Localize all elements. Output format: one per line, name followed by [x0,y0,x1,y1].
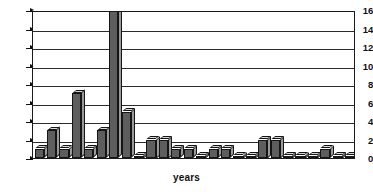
bar-front-face [47,130,56,158]
bar-front-face [196,156,205,159]
bar [221,12,230,158]
bar [258,12,267,158]
bar [72,12,81,158]
bar-front-face [271,140,280,159]
gridline [33,86,354,87]
bar-front-face [109,12,118,158]
bar [97,12,106,158]
bar [308,12,317,158]
bar-chart: 0246810121416 years [0,0,373,192]
bar-front-face [209,149,218,158]
bar-front-face [59,149,68,158]
bar-front-face [345,156,354,159]
bar-front-face [146,140,155,159]
bar [59,12,68,158]
gridline [33,31,354,32]
bar-front-face [97,130,106,158]
bar [320,12,329,158]
bar-front-face [159,140,168,159]
bar [47,12,56,158]
bar [196,12,205,158]
plot-inner [33,12,354,158]
gridline [33,68,354,69]
bar-front-face [320,149,329,158]
bar-front-face [333,156,342,159]
bar [271,12,280,158]
bar-front-face [233,156,242,159]
bar-front-face [171,149,180,158]
bar [333,12,342,158]
bar [233,12,242,158]
bar [84,12,93,158]
bar-front-face [295,156,304,159]
bar-front-face [246,156,255,159]
bar-front-face [308,156,317,159]
bar-front-face [134,156,143,159]
bar-front-face [72,93,81,158]
bar [35,12,44,158]
bar-top-face [345,152,354,155]
bar-front-face [84,149,93,158]
bar [109,12,118,158]
bar-front-face [184,149,193,158]
bar [171,12,180,158]
bar [209,12,218,158]
bar [146,12,155,158]
bar [184,12,193,158]
x-axis-label: years [0,172,373,183]
bar-front-face [258,140,267,159]
bar [283,12,292,158]
bar-front-face [221,149,230,158]
bar [122,12,131,158]
gridline [33,49,354,50]
bar [295,12,304,158]
bar [246,12,255,158]
bar-front-face [35,149,44,158]
bar-front-face [283,156,292,159]
bar [159,12,168,158]
bar [134,12,143,158]
bar-front-face [122,112,131,158]
plot-area [32,11,355,159]
bar [345,12,354,158]
